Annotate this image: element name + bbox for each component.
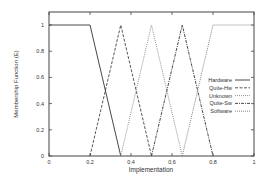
legend-label: Unknown <box>209 93 232 99</box>
y-tick-label: 0.4 <box>36 101 44 107</box>
series-line-hardware <box>49 25 121 156</box>
legend-label: Hardware <box>208 77 232 83</box>
series-line-quite-hw <box>90 25 152 156</box>
y-tick-label: 0.6 <box>36 74 44 80</box>
membership-function-chart: 00.20.40.60.81 00.20.40.60.81 HardwareQu… <box>0 0 268 180</box>
legend-label: Quite-Sw <box>209 100 232 106</box>
y-tick-label: 1 <box>41 22 44 28</box>
legend-label: Software <box>210 108 232 114</box>
series-line-quite-sw <box>152 25 214 156</box>
y-tick-label: 0 <box>41 153 44 159</box>
x-tick-label: 0.4 <box>127 159 135 165</box>
x-tick-label: 0.6 <box>168 159 176 165</box>
legend-label: Quite-Hw <box>209 85 232 91</box>
y-axis-label: Membership Function (E) <box>13 50 19 117</box>
y-tick-label: 0.2 <box>36 127 44 133</box>
legend: HardwareQuite-HwUnknownQuite-SwSoftware <box>208 77 250 114</box>
y-tick-label: 0.8 <box>36 48 44 54</box>
series-line-unknown <box>121 25 183 156</box>
x-axis-label: Implementation <box>129 166 174 174</box>
x-tick-label: 0.2 <box>86 159 94 165</box>
x-tick-label: 0.8 <box>209 159 217 165</box>
x-tick-label: 1 <box>252 159 255 165</box>
x-tick-label: 0 <box>47 159 50 165</box>
